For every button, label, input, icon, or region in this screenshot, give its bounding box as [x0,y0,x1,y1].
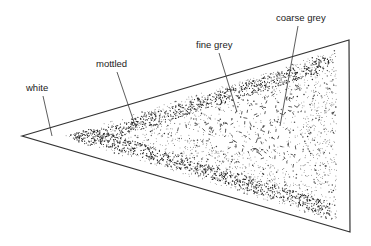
stipple-texture [66,50,338,220]
leader-lines [43,26,298,136]
label-mottled: mottled [96,58,127,69]
triangle-outline [22,40,350,232]
label-white: white [25,82,48,93]
label-fine-grey: fine grey [196,39,233,50]
texture-zone-diagram: white mottled fine grey coarse grey [0,0,371,246]
label-coarse-grey: coarse grey [276,12,326,23]
leader-line-mottled [117,72,136,128]
